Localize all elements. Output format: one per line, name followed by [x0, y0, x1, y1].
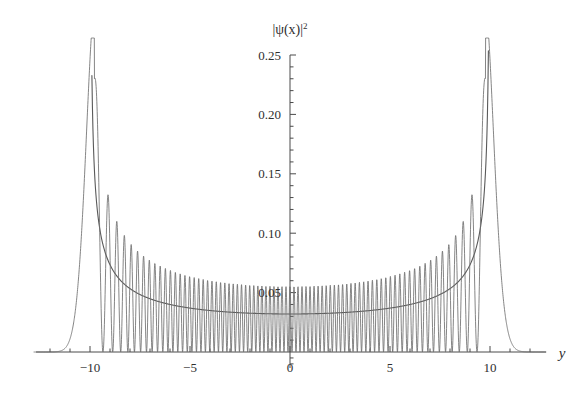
y-axis-tick-label: 0.25 [258, 48, 281, 63]
x-axis-tick-label: −10 [80, 360, 100, 375]
x-axis-tick-label: −5 [183, 360, 197, 375]
x-axis-title: y [557, 345, 566, 361]
x-axis-tick-label: 5 [387, 360, 394, 375]
y-axis-tick-labels: 0.050.100.150.200.25 [258, 48, 281, 301]
figure-container: −10−50510 0.050.100.150.200.25 |ψ(x)|2 y [0, 0, 584, 403]
plot-canvas: −10−50510 0.050.100.150.200.25 |ψ(x)|2 y [0, 0, 584, 403]
y-axis-tick-label: 0.15 [258, 166, 281, 181]
y-axis-title: |ψ(x)|2 [272, 21, 307, 38]
y-axis-tick-label: 0.10 [258, 226, 281, 241]
x-axis-tick-label: 0 [287, 360, 294, 375]
x-axis-ticks [50, 346, 530, 352]
y-axis-title-exponent: 2 [303, 21, 308, 31]
y-axis-tick-label: 0.05 [258, 285, 281, 300]
y-axis-title-main: |ψ(x)| [272, 22, 303, 38]
x-axis-tick-label: 10 [484, 360, 497, 375]
y-axis-tick-label: 0.20 [258, 107, 281, 122]
x-axis-tick-labels: −10−50510 [80, 360, 497, 375]
